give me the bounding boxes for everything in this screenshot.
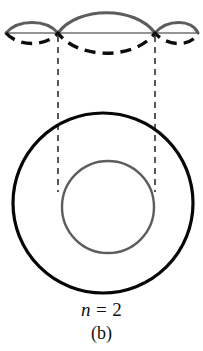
quantum-number-symbol: n [81,299,91,320]
quantum-number-value: 2 [112,299,122,320]
quantum-number-equals: = [96,299,107,320]
quantum-number-label: n = 2 [0,299,203,321]
outer-orbit-circle [13,113,193,293]
wave-curve-solid [6,13,198,33]
inner-orbit-circle [62,161,154,253]
wave-curve-dashed [6,33,198,53]
panel-label: (b) [0,323,203,344]
standing-wave-orbit-figure: n = 2 (b) [0,0,203,351]
